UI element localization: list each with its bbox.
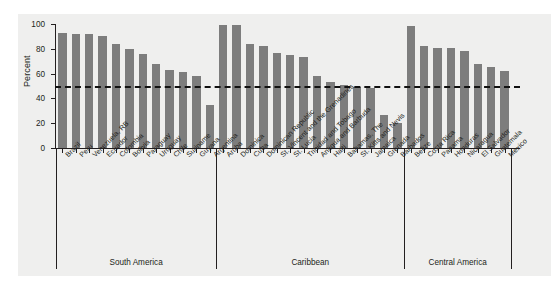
- bar: [58, 33, 66, 148]
- group-separator: [511, 149, 512, 269]
- group-separator: [404, 149, 405, 269]
- bar: [433, 48, 441, 148]
- y-tick: 40: [51, 98, 55, 99]
- bar: [273, 53, 281, 148]
- y-axis-title: Percent: [22, 55, 32, 87]
- bar: [246, 44, 254, 148]
- y-tick-label: 100: [31, 20, 45, 29]
- group-separator: [56, 149, 57, 269]
- y-tick: 100: [51, 24, 55, 25]
- reference-line-50-percent: [55, 86, 520, 88]
- bar: [152, 64, 160, 148]
- bar: [460, 51, 468, 148]
- y-tick: 0: [51, 148, 55, 149]
- y-tick: 80: [51, 49, 55, 50]
- y-tick-label: 0: [40, 144, 45, 153]
- group-separator: [216, 149, 217, 269]
- group-label: South America: [109, 258, 162, 267]
- bar: [125, 49, 133, 148]
- y-tick-label: 20: [36, 119, 45, 128]
- y-tick-label: 40: [36, 94, 45, 103]
- y-tick: 20: [51, 123, 55, 124]
- category-labels: BrazilPeruVenezuela, RBEcuadorColombiaBo…: [55, 150, 525, 250]
- bar: [72, 34, 80, 148]
- group-label: Caribbean: [291, 258, 329, 267]
- bar: [98, 36, 106, 148]
- chart-figure: Percent 020406080100 BrazilPeruVenezuela…: [0, 0, 551, 286]
- y-tick: 60: [51, 74, 55, 75]
- y-tick-label: 80: [36, 44, 45, 53]
- bar: [85, 34, 93, 148]
- group-label: Central America: [429, 258, 487, 267]
- y-tick-label: 60: [36, 69, 45, 78]
